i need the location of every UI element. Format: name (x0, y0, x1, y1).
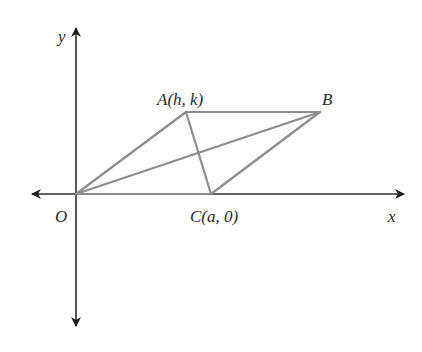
point-c-label: C(a, 0) (190, 207, 239, 226)
y-axis-label: y (56, 27, 66, 46)
origin-label: O (55, 207, 67, 226)
point-b-label: B (322, 90, 333, 109)
x-axis-label: x (387, 207, 396, 226)
segment-OA (76, 112, 186, 194)
diagonal-AC (186, 112, 211, 194)
point-c-coords: (a, 0) (201, 207, 238, 226)
coordinate-diagram: y x O A(h, k) B C(a, 0) (0, 0, 422, 352)
point-a-name: A (156, 90, 168, 109)
point-a-label: A(h, k) (156, 90, 204, 109)
parallelogram (76, 112, 320, 194)
point-a-coords: (h, k) (167, 90, 203, 109)
segment-BC (211, 112, 320, 194)
axes (32, 28, 404, 326)
point-c-name: C (190, 207, 202, 226)
